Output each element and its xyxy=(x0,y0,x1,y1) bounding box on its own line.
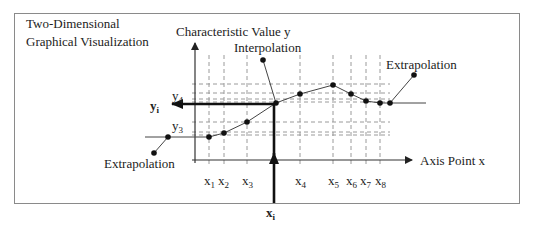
x-tick-x6: x6 xyxy=(346,173,357,193)
x-tick-x3: x3 xyxy=(242,173,253,193)
x-tick-x8: x8 xyxy=(375,173,386,193)
x-axis-label: Axis Point x xyxy=(420,153,485,168)
y-tick-y3: y3 xyxy=(172,118,183,138)
horizontal-grid-lines xyxy=(192,84,390,135)
extrapolation-right-label: Extrapolation xyxy=(386,57,457,72)
right-extrapolation xyxy=(390,75,426,103)
input-xi-label: xi xyxy=(266,205,275,225)
extrapolation-left-label: Extrapolation xyxy=(104,156,175,171)
x-tick-x2: x2 xyxy=(218,173,229,193)
x-tick-x5: x5 xyxy=(328,173,339,193)
data-points xyxy=(151,57,417,156)
vertical-grid-lines xyxy=(209,55,380,165)
y-tick-yi: yi xyxy=(150,98,159,118)
y-tick-y4: y4 xyxy=(172,88,183,108)
x-tick-x1: x1 xyxy=(204,173,215,193)
interpolation-label: Interpolation xyxy=(234,40,301,55)
x-tick-x7: x7 xyxy=(360,173,371,193)
title-line-2: Graphical Visualization xyxy=(26,34,149,49)
x-tick-x4: x4 xyxy=(295,173,306,193)
y-axis-label: Characteristic Value y xyxy=(176,24,291,39)
title-line-1: Two-Dimensional xyxy=(26,16,120,31)
interpolation-leader xyxy=(263,60,276,103)
